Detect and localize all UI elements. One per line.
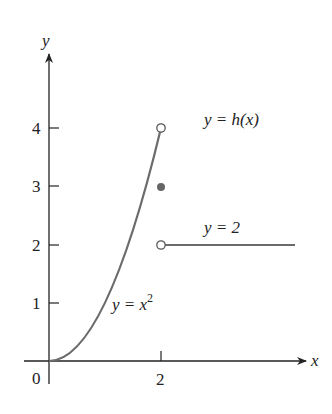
parabola-curve xyxy=(49,128,161,361)
y-tick-label-3: 3 xyxy=(32,177,41,196)
parabola-label-exp: 2 xyxy=(147,291,153,305)
filled-point xyxy=(157,183,165,191)
open-point-top xyxy=(157,124,165,132)
parabola-label: y = x2 xyxy=(110,291,153,314)
constant-label: y = 2 xyxy=(202,218,241,237)
function-label: y = h(x) xyxy=(202,110,259,129)
y-tick-label-4: 4 xyxy=(32,119,41,138)
x-axis-label: x xyxy=(310,351,319,370)
x-tick-label-2: 2 xyxy=(156,370,165,389)
open-point-bottom xyxy=(157,241,165,249)
y-axis-label: y xyxy=(40,31,50,50)
origin-label: 0 xyxy=(32,369,41,388)
parabola-label-base: y = x xyxy=(110,295,148,314)
y-tick-label-2: 2 xyxy=(32,236,41,255)
graph: y x 0 2 4 3 2 1 y = h(x) y = 2 y = x2 xyxy=(0,0,332,414)
y-tick-label-1: 1 xyxy=(32,294,41,313)
